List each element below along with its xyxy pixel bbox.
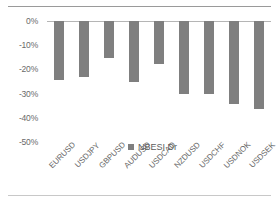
bar-chart: 0%-10%-20%-30%-40%-50% EURUSDUSDJPYGBPUS… [0, 0, 277, 201]
bar [154, 21, 164, 64]
bar-slot [172, 21, 196, 142]
x-axis-tick: NZDUSD [172, 150, 196, 198]
x-axis-tick: GBPUSD [97, 150, 121, 198]
y-axis-tick: -40% [19, 113, 38, 123]
chart-legend: NBESI Dr [128, 142, 177, 152]
y-axis-tick: -20% [19, 64, 38, 74]
bar [79, 21, 89, 77]
plot-area [47, 21, 271, 142]
bar-slot [197, 21, 221, 142]
x-axis-tick: USDSEK [247, 150, 271, 198]
bar-slot [72, 21, 96, 142]
y-axis-tick: -10% [19, 40, 38, 50]
x-axis-tick: USDNOK [222, 150, 246, 198]
x-axis-tick: USDCHF [197, 150, 221, 198]
legend-label: NBESI Dr [138, 142, 177, 152]
bar-slot [247, 21, 271, 142]
bar-slot [147, 21, 171, 142]
x-axis-tick: USDCAD [147, 150, 171, 198]
x-axis-tick: AUDUSD [122, 150, 146, 198]
bar [129, 21, 139, 82]
top-divider [8, 6, 271, 7]
bar [179, 21, 189, 94]
bar-slot [122, 21, 146, 142]
bar-slot [47, 21, 71, 142]
bar-slot [222, 21, 246, 142]
bar-slot [97, 21, 121, 142]
y-axis: 0%-10%-20%-30%-40%-50% [0, 0, 45, 163]
x-axis: EURUSDUSDJPYGBPUSDAUDUSDUSDCADNZDUSDUSDC… [47, 150, 271, 198]
bottom-divider [8, 195, 271, 196]
y-axis-tick: 0% [26, 16, 38, 26]
bar [54, 21, 64, 80]
bar-series-nbesi-dr [47, 21, 271, 142]
y-axis-tick: -50% [19, 137, 38, 147]
legend-swatch-icon [128, 144, 134, 150]
bar [204, 21, 214, 94]
bar [104, 21, 114, 58]
bar [229, 21, 239, 104]
y-axis-tick: -30% [19, 89, 38, 99]
x-axis-tick: USDJPY [72, 150, 96, 198]
x-axis-tick: EURUSD [47, 150, 71, 198]
bar [254, 21, 264, 109]
